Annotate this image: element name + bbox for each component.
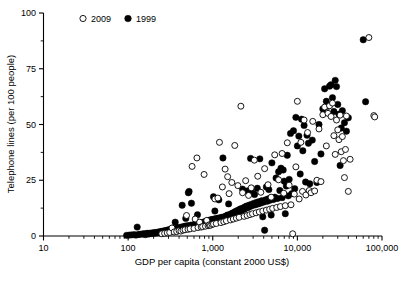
data-point-2009 bbox=[291, 191, 297, 197]
data-point-2009 bbox=[372, 114, 378, 120]
data-point-2009 bbox=[284, 140, 290, 146]
y-axis-tick-labels: 0255075100 bbox=[21, 8, 36, 241]
data-point-2009 bbox=[298, 139, 304, 145]
data-point-1999 bbox=[309, 137, 315, 143]
data-point-2009 bbox=[201, 171, 207, 177]
data-point-2009 bbox=[255, 173, 261, 179]
data-point-1999 bbox=[268, 212, 274, 218]
data-point-2009 bbox=[286, 182, 292, 188]
data-point-1999 bbox=[307, 181, 313, 187]
x-tick-label: 100 bbox=[121, 243, 136, 253]
data-point-2009 bbox=[328, 113, 334, 119]
data-point-1999 bbox=[282, 211, 288, 217]
data-point-2009 bbox=[279, 150, 285, 156]
data-point-2009 bbox=[276, 177, 282, 183]
data-point-2009 bbox=[293, 164, 299, 170]
x-tick-label: 100,000 bbox=[366, 243, 399, 253]
data-point-1999 bbox=[220, 155, 226, 161]
data-point-2009 bbox=[342, 146, 348, 152]
y-tick-label: 25 bbox=[26, 175, 36, 185]
data-point-2009 bbox=[248, 185, 254, 191]
data-point-2009 bbox=[226, 191, 232, 197]
data-point-2009 bbox=[310, 118, 316, 124]
data-point-2009 bbox=[215, 195, 221, 201]
data-point-1999 bbox=[293, 114, 299, 120]
data-point-1999 bbox=[297, 171, 303, 177]
y-tick-label: 0 bbox=[31, 231, 36, 241]
legend-label-2009: 2009 bbox=[91, 14, 111, 24]
data-point-1999 bbox=[269, 160, 275, 166]
data-point-2009 bbox=[316, 126, 322, 132]
x-axis-title: GDP per capita (constant 2000 US$) bbox=[135, 256, 290, 267]
data-point-1999 bbox=[172, 219, 178, 225]
y-axis-ticks bbox=[39, 13, 44, 236]
data-point-2009 bbox=[246, 192, 252, 198]
data-point-2009 bbox=[240, 190, 246, 196]
data-point-2009 bbox=[184, 212, 190, 218]
data-point-2009 bbox=[235, 183, 241, 189]
data-point-2009 bbox=[194, 155, 200, 161]
x-axis-tick-labels: 101001,00010,000100,000 bbox=[38, 243, 398, 253]
data-point-2009 bbox=[238, 103, 244, 109]
data-point-1999 bbox=[362, 99, 368, 105]
data-point-1999 bbox=[134, 224, 140, 230]
data-point-1999 bbox=[343, 128, 349, 134]
x-tick-label: 10 bbox=[38, 243, 48, 253]
data-point-2009 bbox=[222, 166, 228, 172]
data-point-2009 bbox=[262, 166, 268, 172]
data-point-1999 bbox=[225, 201, 231, 207]
data-point-2009 bbox=[323, 143, 329, 149]
y-tick-label: 75 bbox=[26, 64, 36, 74]
data-point-2009 bbox=[290, 231, 296, 237]
data-point-2009 bbox=[345, 188, 351, 194]
data-point-2009 bbox=[329, 100, 335, 106]
data-point-2009 bbox=[335, 127, 341, 133]
data-point-2009 bbox=[281, 190, 287, 196]
data-point-1999 bbox=[333, 83, 339, 89]
data-point-1999 bbox=[179, 202, 185, 208]
data-point-1999 bbox=[332, 77, 338, 83]
y-axis-title: Telephone lines (per 100 people) bbox=[5, 55, 16, 193]
data-point-1999 bbox=[300, 148, 306, 154]
data-point-2009 bbox=[301, 117, 307, 123]
data-point-2009 bbox=[366, 35, 372, 41]
legend-label-1999: 1999 bbox=[136, 14, 156, 24]
data-point-2009 bbox=[189, 163, 195, 169]
data-point-2009 bbox=[243, 178, 249, 184]
data-point-2009 bbox=[282, 203, 288, 209]
data-point-2009 bbox=[225, 174, 231, 180]
data-point-1999 bbox=[261, 227, 267, 233]
data-point-1999 bbox=[311, 158, 317, 164]
data-point-2009 bbox=[331, 133, 337, 139]
data-point-2009 bbox=[268, 194, 274, 200]
chart-legend: 2009 1999 bbox=[80, 14, 156, 24]
chart-canvas: 0255075100 101001,00010,000100,000 2009 … bbox=[0, 0, 404, 288]
data-point-2009 bbox=[347, 156, 353, 162]
data-point-2009 bbox=[296, 196, 302, 202]
data-point-1999 bbox=[186, 188, 192, 194]
x-tick-label: 1,000 bbox=[201, 243, 224, 253]
data-point-2009 bbox=[312, 188, 318, 194]
legend-marker-open-circle bbox=[80, 15, 86, 21]
data-point-2009 bbox=[232, 142, 238, 148]
data-point-2009 bbox=[265, 182, 271, 188]
data-point-1999 bbox=[212, 208, 218, 214]
data-point-2009 bbox=[341, 175, 347, 181]
data-point-1999 bbox=[318, 151, 324, 157]
data-point-2009 bbox=[272, 152, 278, 158]
data-point-2009 bbox=[229, 179, 235, 185]
data-point-2009 bbox=[332, 151, 338, 157]
y-tick-label: 100 bbox=[21, 8, 36, 18]
y-tick-label: 50 bbox=[26, 120, 36, 130]
data-point-2009 bbox=[318, 179, 324, 185]
data-point-2009 bbox=[339, 134, 345, 140]
data-point-2009 bbox=[294, 98, 300, 104]
data-point-1999 bbox=[251, 191, 257, 197]
data-point-2009 bbox=[251, 157, 257, 163]
data-point-2009 bbox=[305, 130, 311, 136]
legend-marker-filled-circle bbox=[125, 15, 132, 22]
data-point-2009 bbox=[216, 139, 222, 145]
data-point-2009 bbox=[340, 158, 346, 164]
scatter-plot-figure: 0255075100 101001,00010,000100,000 2009 … bbox=[0, 0, 404, 288]
data-point-1999 bbox=[296, 133, 302, 139]
